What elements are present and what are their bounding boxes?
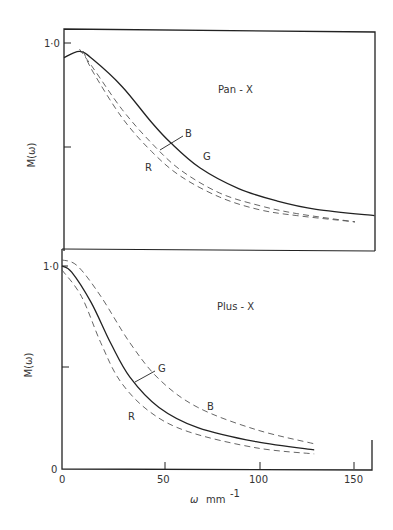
xtick-label-100: 100 — [249, 474, 268, 485]
bottom-panel: 1·0 0 0 50 100 150 M(ω) Plus - X G B R ω… — [23, 249, 372, 505]
bottom-G-leader — [135, 371, 155, 382]
top-panel: 1·0 M(ω) Pan - X B G R — [26, 29, 375, 251]
top-label-G: G — [203, 151, 211, 162]
top-ytick-label-1: 1·0 — [44, 38, 60, 49]
top-B-leader — [160, 136, 183, 150]
bottom-label-G: G — [158, 363, 166, 374]
bottom-ylabel: M(ω) — [23, 353, 34, 378]
panel-divider — [62, 249, 375, 251]
xtick-label-150: 150 — [344, 474, 363, 485]
curve-G — [62, 266, 314, 450]
top-panel-title: Pan - X — [218, 84, 253, 95]
xtick-label-50: 50 — [157, 474, 170, 485]
curve-R — [62, 270, 314, 454]
xtick-label-0: 0 — [59, 474, 65, 485]
top-curves — [64, 49, 374, 222]
xlabel-omega: ω — [190, 494, 198, 505]
bottom-label-B: B — [207, 401, 214, 412]
top-panel-frame — [64, 29, 375, 251]
top-ylabel: M(ω) — [26, 143, 37, 168]
mtf-chart: 1·0 M(ω) Pan - X B G R 1·0 0 0 50 100 15… — [0, 0, 393, 530]
bottom-panel-title: Plus - X — [217, 301, 254, 312]
xlabel-exp: -1 — [230, 488, 240, 499]
top-label-R: R — [145, 162, 152, 173]
bottom-curves — [62, 260, 314, 454]
curve-R — [83, 51, 355, 222]
bottom-ytick-label-1: 1·0 — [43, 261, 59, 272]
top-label-B: B — [185, 128, 192, 139]
xlabel-unit: mm — [206, 494, 225, 505]
bottom-ytick-label-0: 0 — [51, 464, 57, 475]
curve-B — [62, 260, 314, 444]
curve-G — [64, 51, 374, 215]
bottom-label-R: R — [128, 411, 135, 422]
